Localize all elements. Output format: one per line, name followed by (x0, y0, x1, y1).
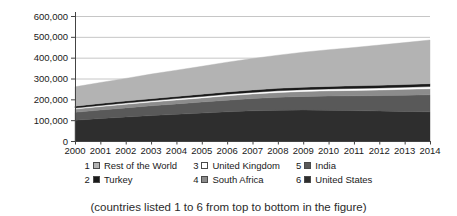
x-tick-label: 2006 (217, 145, 238, 156)
legend-swatch-icon (201, 162, 208, 169)
x-tick-label: 2000 (64, 145, 85, 156)
legend-swatch-icon (201, 176, 208, 183)
legend-index: 1 (85, 159, 90, 172)
x-tick-label: 2004 (166, 145, 187, 156)
y-tick-label: 500,000 (34, 31, 68, 42)
legend-index: 6 (296, 173, 301, 186)
legend-label: Rest of the World (104, 159, 177, 172)
legend-swatch-icon (93, 176, 100, 183)
x-tick-label: 2012 (369, 145, 390, 156)
x-tick-label: 2001 (90, 145, 111, 156)
stacked-area-chart-figure: 0100,000200,000300,000400,000500,000600,… (0, 0, 457, 216)
legend-item-south-africa: 4 South Africa (193, 173, 280, 186)
legend-label: United Kingdom (212, 159, 280, 172)
legend-label: United States (315, 173, 372, 186)
legend-item-india: 5 India (296, 159, 372, 172)
y-tick-label: 400,000 (34, 52, 68, 63)
x-tick-label: 2002 (115, 145, 136, 156)
legend-swatch-icon (93, 162, 100, 169)
legend-item-united-states: 6 United States (296, 173, 372, 186)
y-tick-label: 200,000 (34, 94, 68, 105)
x-tick-label: 2007 (242, 145, 263, 156)
x-tick-label: 2014 (419, 145, 440, 156)
legend-item-rest-of-the-world: 1 Rest of the World (85, 159, 178, 172)
x-tick-label: 2010 (318, 145, 339, 156)
legend-label: Turkey (104, 173, 133, 186)
legend-swatch-icon (304, 176, 311, 183)
legend-index: 5 (296, 159, 301, 172)
x-tick-label: 2005 (191, 145, 212, 156)
y-tick-label: 100,000 (34, 115, 68, 126)
x-tick-label: 2009 (293, 145, 314, 156)
figure-caption: (countries listed 1 to 6 from top to bot… (0, 201, 457, 213)
legend-label: India (315, 159, 336, 172)
y-tick-label: 300,000 (34, 73, 68, 84)
legend-label: South Africa (212, 173, 263, 186)
x-tick-label: 2008 (267, 145, 288, 156)
chart-plot-area: 0100,000200,000300,000400,000500,000600,… (0, 0, 457, 157)
legend-index: 2 (85, 173, 90, 186)
x-tick-label: 2003 (141, 145, 162, 156)
legend-index: 4 (193, 173, 198, 186)
x-tick-label: 2013 (394, 145, 415, 156)
legend-swatch-icon (304, 162, 311, 169)
x-tick-label: 2011 (344, 145, 364, 156)
y-tick-label: 600,000 (34, 11, 68, 22)
legend-index: 3 (193, 159, 198, 172)
chart-legend: 1 Rest of the World 2 Turkey 3 United Ki… (0, 159, 457, 186)
legend-item-turkey: 2 Turkey (85, 173, 178, 186)
legend-item-united-kingdom: 3 United Kingdom (193, 159, 280, 172)
